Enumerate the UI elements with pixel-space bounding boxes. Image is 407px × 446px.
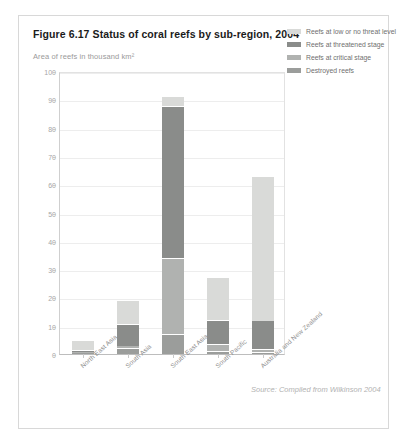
legend-item[interactable]: Reefs at threatened stage: [287, 39, 403, 51]
y-axis-tick-mark: [53, 327, 56, 328]
source-note: Source: Compiled from Wilkinson 2004: [251, 384, 381, 395]
bar-segment[interactable]: [252, 177, 274, 321]
bar-segment[interactable]: [207, 345, 229, 351]
x-axis-tick-mark: [173, 354, 174, 358]
bar-segment[interactable]: [162, 97, 184, 106]
bar-segment[interactable]: [72, 351, 94, 352]
legend-swatch-icon: [287, 55, 301, 60]
bar-column[interactable]: [117, 300, 139, 354]
axis-unit-note: Area of reefs in thousand km²: [33, 52, 134, 61]
y-axis-tick-mark: [53, 355, 56, 356]
bar-segment[interactable]: [117, 301, 139, 324]
bar-segment[interactable]: [252, 321, 274, 349]
bar-segment[interactable]: [207, 321, 229, 344]
legend-swatch-icon: [287, 29, 301, 34]
legend-item[interactable]: Reefs at low or no threat level: [287, 26, 403, 38]
x-axis-tick-mark: [83, 354, 84, 358]
gridline: [60, 73, 284, 74]
legend-label: Destroyed reefs: [306, 65, 354, 76]
legend-label: Reefs at low or no threat level: [306, 26, 396, 37]
bar-column[interactable]: [162, 96, 184, 354]
bar-column[interactable]: [72, 340, 94, 354]
legend-swatch-icon: [287, 42, 301, 47]
y-axis-tick-mark: [53, 298, 56, 299]
bar-segment[interactable]: [72, 341, 94, 351]
x-axis-tick-mark: [128, 354, 129, 358]
y-axis-tick-mark: [53, 100, 56, 101]
legend-swatch-icon: [287, 68, 301, 73]
bar-segment[interactable]: [117, 346, 139, 348]
bar-column[interactable]: [252, 176, 274, 354]
bar-segment[interactable]: [117, 325, 139, 345]
legend-item[interactable]: Reefs at critical stage: [287, 52, 403, 64]
bar-segment[interactable]: [162, 107, 184, 258]
y-axis-tick-mark: [53, 242, 56, 243]
figure-card: Figure 6.17 Status of coral reefs by sub…: [18, 15, 389, 429]
y-axis-tick-mark: [53, 157, 56, 158]
bar-segment[interactable]: [162, 259, 184, 335]
y-axis-tick-mark: [53, 270, 56, 271]
plot-area: [59, 72, 285, 355]
bar-segment[interactable]: [162, 335, 184, 354]
y-axis-tick-mark: [53, 72, 56, 73]
bar-column[interactable]: [207, 278, 229, 354]
chart-plot-wrapper: 0102030405060708090100 North East AsiaSo…: [33, 68, 377, 368]
legend-item[interactable]: Destroyed reefs: [287, 65, 403, 77]
legend-label: Reefs at critical stage: [306, 52, 371, 63]
legend-label: Reefs at threatened stage: [306, 39, 384, 50]
y-axis-tick-mark: [53, 185, 56, 186]
y-axis-tick-mark: [53, 214, 56, 215]
chart-legend: Reefs at low or no threat levelReefs at …: [287, 26, 403, 78]
x-axis-tick-mark: [218, 354, 219, 358]
y-axis-tick-mark: [53, 129, 56, 130]
bar-segment[interactable]: [207, 278, 229, 320]
y-axis-labels: 0102030405060708090100: [33, 72, 56, 355]
